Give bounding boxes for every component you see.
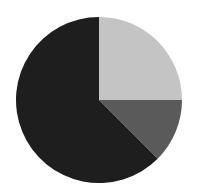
pie-slices	[16, 17, 182, 183]
pie-chart	[0, 0, 201, 190]
pie-slice-1	[99, 17, 182, 100]
pie-chart-svg	[0, 0, 201, 190]
